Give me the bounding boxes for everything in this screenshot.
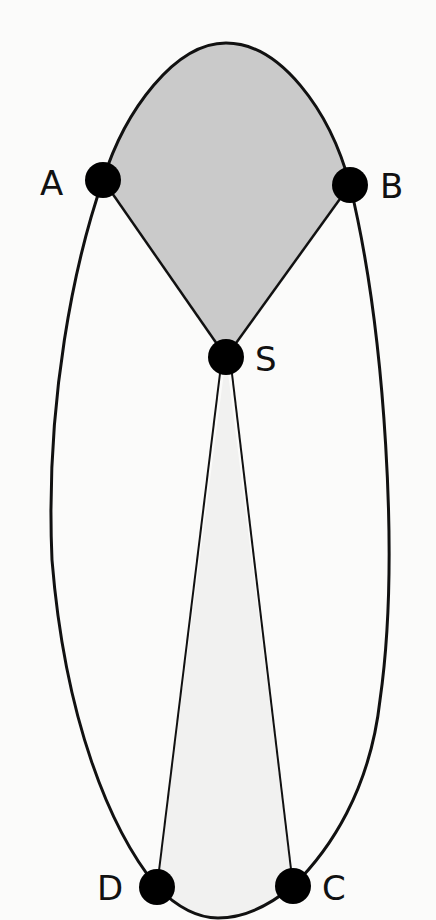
node-B (332, 167, 368, 203)
node-A (85, 162, 121, 198)
label-A: A (40, 163, 63, 203)
lower-region (157, 357, 293, 918)
label-B: B (380, 166, 403, 206)
node-C (275, 868, 311, 904)
upper-region (103, 43, 350, 357)
label-D: D (97, 868, 123, 908)
label-S: S (255, 339, 277, 379)
diagram-canvas: A B S D C (0, 0, 436, 920)
node-S (208, 339, 244, 375)
node-D (139, 869, 175, 905)
label-C: C (322, 868, 346, 908)
